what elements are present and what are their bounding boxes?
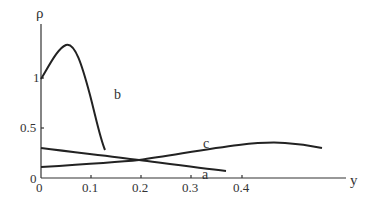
y-tick-label-0: 0 <box>30 171 37 186</box>
curve-label-a: a <box>202 167 209 182</box>
x-tick-label-0.4: 0.4 <box>233 180 250 195</box>
y-tick-label-0.5: 0.5 <box>20 120 36 135</box>
y-axis-label: ρ <box>36 5 44 21</box>
curve-b <box>41 45 105 150</box>
x-tick-label-0.3: 0.3 <box>182 180 198 195</box>
x-tick-label-0.1: 0.1 <box>82 180 98 195</box>
chart-canvas: 0 0.1 0.2 0.3 0.4 0 0.5 1 ρ y b c a <box>0 0 372 202</box>
x-axis-label: y <box>350 172 358 188</box>
curve-label-b: b <box>114 87 121 102</box>
x-tick-label-0: 0 <box>36 180 43 195</box>
curve-label-c: c <box>203 136 209 151</box>
x-tick-label-0.2: 0.2 <box>132 180 148 195</box>
curve-c <box>41 143 322 167</box>
y-tick-label-1: 1 <box>33 70 40 85</box>
